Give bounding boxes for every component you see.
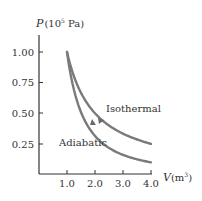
x-tick-label: 2.0 [87,178,103,189]
y-tick-label: 0.25 [12,139,34,150]
y-tick-label: 0.50 [12,108,34,119]
y-tick-label: 1.00 [12,47,34,58]
adiabatic-label: Adiabatic [58,137,107,148]
pv-diagram: 1.00 0.75 0.50 0.25 1.0 2.0 3.0 4.0 P(10… [0,0,202,201]
isothermal-label: Isothermal [106,103,161,114]
x-axis-label: V(m3) [163,171,192,184]
x-tick-label: 4.0 [143,178,159,189]
x-tick-label: 1.0 [59,178,75,189]
isothermal-curve [67,52,151,144]
x-tick-label: 3.0 [115,178,131,189]
adiabatic-arrow-icon [90,119,96,125]
y-axis-label: P(105 Pa) [35,17,84,30]
y-tick-label: 0.75 [12,77,34,88]
